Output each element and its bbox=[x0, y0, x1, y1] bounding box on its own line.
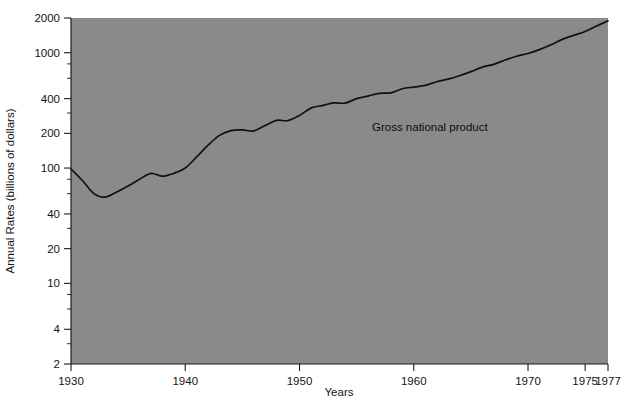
x-tick-label-1960: 1960 bbox=[401, 375, 427, 387]
x-tick-label-1977: 1977 bbox=[595, 375, 621, 387]
y-axis-title: Annual Rates (billions of dollars) bbox=[4, 108, 16, 273]
y-tick-label-40: 40 bbox=[47, 208, 60, 220]
x-tick-label-1940: 1940 bbox=[172, 375, 198, 387]
x-tick-label-1975: 1975 bbox=[572, 375, 598, 387]
x-tick-label-1930: 1930 bbox=[58, 375, 84, 387]
chart-figure: 2410204010020040010002000 19301940195019… bbox=[0, 0, 624, 414]
y-tick-label-100: 100 bbox=[41, 162, 60, 174]
y-tick-label-10: 10 bbox=[47, 277, 60, 289]
y-tick-label-4: 4 bbox=[54, 323, 61, 335]
y-tick-label-2000: 2000 bbox=[34, 12, 60, 24]
x-tick-label-1950: 1950 bbox=[287, 375, 313, 387]
y-tick-label-400: 400 bbox=[41, 93, 60, 105]
plot-area-background bbox=[71, 18, 608, 364]
x-axis-title: Years bbox=[325, 386, 354, 398]
gnp-semilog-chart: 2410204010020040010002000 19301940195019… bbox=[0, 0, 624, 414]
x-tick-label-1970: 1970 bbox=[515, 375, 541, 387]
series-annotation-label: Gross national product bbox=[372, 121, 489, 133]
y-tick-label-2: 2 bbox=[54, 358, 60, 370]
y-tick-label-1000: 1000 bbox=[34, 47, 60, 59]
y-tick-label-200: 200 bbox=[41, 127, 60, 139]
y-tick-label-20: 20 bbox=[47, 243, 60, 255]
